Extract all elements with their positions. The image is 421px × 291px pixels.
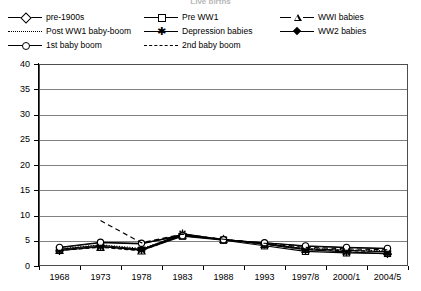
y-axis-tick: [34, 266, 38, 267]
legend-item-1st-baby-boom[interactable]: 1st baby boom: [8, 39, 102, 52]
chart-title-clipped: Live births: [0, 0, 421, 7]
x-axis-tick-label: 1973: [78, 272, 124, 282]
y-axis-tick: [34, 115, 38, 116]
gridline: [40, 241, 407, 242]
legend-label: WW2 babies: [318, 27, 366, 36]
y-axis-tick-label: 15: [0, 186, 30, 195]
x-axis-tick-label: 1988: [201, 272, 247, 282]
y-axis-tick: [34, 216, 38, 217]
star-icon: ✱: [157, 27, 166, 36]
y-axis-tick-label: 10: [0, 211, 30, 220]
y-axis-tick: [34, 64, 38, 65]
plot-area: [39, 64, 408, 266]
diamond-open-icon: [20, 12, 31, 23]
y-axis-tick-label: 30: [0, 110, 30, 119]
legend-label: Depression babies: [182, 27, 252, 36]
legend-item-pre-ww1[interactable]: Pre WW1: [144, 11, 218, 24]
x-axis-tick: [39, 266, 40, 270]
gridline: [40, 115, 407, 116]
y-axis-tick-label: 5: [0, 236, 30, 245]
gridline: [40, 89, 407, 90]
y-axis-tick: [34, 140, 38, 141]
circle-open-icon: [22, 42, 30, 50]
legend-item-wwi-babies[interactable]: WWI babies: [280, 11, 364, 24]
y-axis-tick: [34, 165, 38, 166]
x-axis-tick: [408, 266, 409, 270]
x-axis-tick: [285, 266, 286, 270]
diamond-filled-icon: [293, 27, 301, 35]
chart-screenshot: Live births pre-1900s Pre WW1: [0, 0, 421, 291]
legend-key-post-ww1-baby-boom: [8, 26, 42, 37]
x-axis-tick-label: 2004/5: [365, 272, 411, 282]
gridline: [40, 165, 407, 166]
x-axis-tick-label: 1993: [242, 272, 288, 282]
square-open-icon: [158, 14, 166, 22]
legend-label: 1st baby boom: [46, 41, 102, 50]
y-axis-tick-label: 40: [0, 60, 30, 69]
y-axis-tick-label: 20: [0, 161, 30, 170]
legend-key-wwi-babies: [280, 12, 314, 23]
y-axis-line: [38, 63, 39, 267]
triangle-open-icon: [294, 14, 302, 21]
legend-item-ww2-babies[interactable]: WW2 babies: [280, 25, 366, 38]
legend-item-pre-1900s[interactable]: pre-1900s: [8, 11, 84, 24]
x-axis-tick: [244, 266, 245, 270]
y-axis-tick: [34, 241, 38, 242]
legend-label: WWI babies: [318, 13, 364, 22]
y-axis-tick-label: 35: [0, 85, 30, 94]
x-axis-tick: [326, 266, 327, 270]
legend-key-pre-ww1: [144, 12, 178, 23]
legend-key-1st-baby-boom: [8, 40, 42, 51]
x-axis-tick: [121, 266, 122, 270]
page-title: Live births: [0, 0, 421, 6]
x-axis-tick: [367, 266, 368, 270]
legend-key-2nd-baby-boom: [144, 40, 178, 51]
y-axis-tick: [34, 190, 38, 191]
x-axis-tick: [203, 266, 204, 270]
gridline: [40, 190, 407, 191]
x-axis-tick-label: 1983: [160, 272, 206, 282]
legend-item-depression-babies[interactable]: ✱ Depression babies: [144, 25, 252, 38]
chart-legend: pre-1900s Pre WW1 WWI babies: [8, 11, 418, 53]
x-axis-tick-label: 1968: [37, 272, 83, 282]
gridline: [40, 140, 407, 141]
legend-label: 2nd baby boom: [182, 41, 241, 50]
y-axis-tick: [34, 89, 38, 90]
x-axis-tick-label: 2000/1: [324, 272, 370, 282]
y-axis-tick-label: 0: [0, 262, 30, 271]
legend-key-depression-babies: ✱: [144, 26, 178, 37]
gridline: [40, 216, 407, 217]
legend-item-post-ww1-baby-boom[interactable]: Post WW1 baby-boom: [8, 25, 131, 38]
x-axis-tick-label: 1997/8: [283, 272, 329, 282]
legend-item-2nd-baby-boom[interactable]: 2nd baby boom: [144, 39, 241, 52]
legend-key-pre-1900s: [8, 12, 42, 23]
x-axis-tick-label: 1978: [119, 272, 165, 282]
legend-label: Pre WW1: [182, 13, 218, 22]
legend-key-ww2-babies: [280, 26, 314, 37]
legend-label: Post WW1 baby-boom: [46, 27, 131, 36]
x-axis-tick: [162, 266, 163, 270]
y-axis-tick-label: 25: [0, 135, 30, 144]
x-axis-tick: [80, 266, 81, 270]
legend-label: pre-1900s: [46, 13, 84, 22]
